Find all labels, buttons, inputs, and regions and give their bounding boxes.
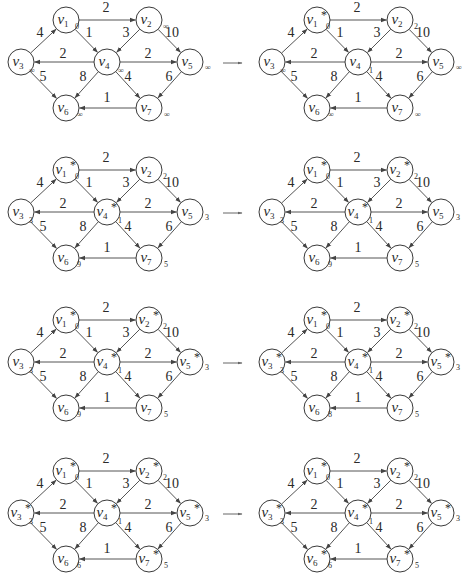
- edge-weight-v3-v1: 4: [288, 325, 295, 340]
- edge-weight-v2-v4: 3: [123, 175, 130, 190]
- permanent-mark-v1: *: [321, 8, 327, 22]
- edge-weight-v4-v5: 2: [396, 46, 403, 61]
- edge-v4-v6: [326, 72, 349, 98]
- distance-label-v2: 2: [163, 172, 167, 181]
- permanent-mark-v1: *: [321, 158, 327, 172]
- distance-label-v6: 9: [77, 410, 81, 419]
- edge-weight-v1-v4: 1: [337, 476, 344, 491]
- node-v7: v7*5: [136, 546, 168, 572]
- node-v6: v6*6: [304, 546, 332, 572]
- edge-weight-v4-v6: 8: [80, 69, 87, 84]
- node-v5: v5∞: [428, 49, 462, 75]
- edge-weight-v4-v7: 4: [376, 369, 383, 384]
- permanent-mark-v2: *: [153, 308, 159, 322]
- graph-panel-1-after: 2143102258461v1*0v22v3∞v41v5∞v6∞v7∞: [259, 0, 462, 121]
- edge-weight-v3-v6: 5: [291, 520, 298, 535]
- distance-label-v7: 5: [164, 260, 168, 269]
- edge-weight-v1-v2: 2: [103, 451, 110, 466]
- edge-weight-v3-v6: 5: [291, 69, 298, 84]
- edge-v4-v6: [326, 372, 349, 398]
- node-v4: v41: [345, 49, 373, 75]
- node-v5: v5*3: [177, 500, 209, 526]
- distance-label-v6: 9: [77, 260, 81, 269]
- node-v4: v4*1: [94, 500, 122, 526]
- node-v3: v33: [8, 199, 34, 225]
- node-v4: v4*1: [345, 500, 373, 526]
- distance-label-v6: 6: [328, 561, 332, 570]
- graph-panel-3-after: 2143102258461v1*0v2*2v3*3v4*1v5*3v68v75: [259, 300, 460, 421]
- node-v4: v4*1: [345, 349, 373, 375]
- graph-panel-3-before: 2143102258461v1*0v2*2v33v4*1v5*3v69v75: [8, 300, 242, 421]
- permanent-mark-v1: *: [70, 308, 76, 322]
- permanent-mark-v3: *: [25, 501, 31, 515]
- node-v4: v4*1: [94, 199, 122, 225]
- edge-weight-v4-v6: 8: [80, 219, 87, 234]
- node-v7: v75: [136, 395, 168, 421]
- node-v7: v75: [387, 395, 419, 421]
- distance-label-v5: ∞: [456, 63, 462, 72]
- node-v2: v2*2: [387, 458, 418, 484]
- edge-weight-v2-v4: 3: [374, 175, 381, 190]
- node-v5: v53: [177, 199, 209, 225]
- distance-label-v1: 0: [326, 172, 330, 181]
- graph-panel-4-after: 2143102258461v1*0v2*2v3*3v4*1v5*3v6*6v7*…: [259, 451, 460, 572]
- distance-label-v5: 3: [456, 213, 460, 222]
- node-v6: v6∞: [304, 95, 334, 121]
- edge-weight-v4-v6: 8: [80, 520, 87, 535]
- distance-label-v2: 2: [163, 473, 167, 482]
- distance-label-v6: ∞: [328, 110, 334, 119]
- edge-weight-v1-v4: 1: [337, 325, 344, 340]
- edge-weight-v4-v5: 2: [145, 46, 152, 61]
- distance-label-v1: 0: [326, 473, 330, 482]
- edge-weight-v4-v3: 2: [311, 46, 318, 61]
- edge-weight-v4-v6: 8: [331, 219, 338, 234]
- node-v3: v3∞: [259, 49, 286, 75]
- edge-v4-v6: [326, 222, 349, 248]
- distance-label-v6: 6: [77, 561, 81, 570]
- permanent-mark-v1: *: [70, 158, 76, 172]
- edge-weight-v4-v6: 8: [331, 369, 338, 384]
- edge-weight-v5-v7: 6: [417, 69, 424, 84]
- distance-label-v4: ∞: [118, 66, 124, 75]
- edge-weight-v4-v5: 2: [145, 196, 152, 211]
- edge-weight-v2-v5: 10: [416, 325, 430, 340]
- distance-label-v7: 5: [164, 410, 168, 419]
- edge-weight-v2-v5: 10: [416, 175, 430, 190]
- distance-label-v1: 0: [75, 172, 79, 181]
- distance-label-v7: 5: [415, 410, 419, 419]
- edge-weight-v1-v4: 1: [86, 325, 93, 340]
- distance-label-v1: 0: [326, 22, 330, 31]
- edge-weight-v1-v2: 2: [103, 0, 110, 15]
- permanent-mark-v4: *: [362, 350, 368, 364]
- edge-weight-v7-v6: 1: [104, 390, 111, 405]
- distance-label-v3: ∞: [29, 66, 35, 75]
- node-v1: v1*0: [53, 458, 79, 484]
- edge-weight-v7-v6: 1: [355, 541, 362, 556]
- permanent-mark-v1: *: [70, 459, 76, 473]
- node-v3: v33: [8, 349, 34, 375]
- edge-weight-v1-v2: 2: [103, 300, 110, 315]
- distance-label-v5: 3: [456, 514, 460, 523]
- edge-v4-v6: [75, 72, 98, 98]
- edge-v4-v6: [75, 372, 98, 398]
- edge-weight-v3-v6: 5: [291, 219, 298, 234]
- permanent-mark-v3: *: [276, 501, 282, 515]
- distance-label-v2: 2: [414, 22, 418, 31]
- edge-weight-v7-v6: 1: [104, 541, 111, 556]
- edge-weight-v1-v2: 2: [354, 451, 361, 466]
- edge-weight-v3-v6: 5: [40, 69, 47, 84]
- node-v6: v68: [304, 395, 332, 421]
- permanent-mark-v4: *: [111, 501, 117, 515]
- distance-label-v1: 0: [75, 22, 79, 31]
- node-v1: v1*0: [304, 307, 330, 333]
- permanent-mark-v7: *: [404, 547, 410, 561]
- distance-label-v7: 5: [415, 561, 419, 570]
- edge-weight-v2-v4: 3: [123, 325, 130, 340]
- edge-weight-v3-v6: 5: [291, 369, 298, 384]
- distance-label-v4: 1: [369, 66, 373, 75]
- edge-v4-v6: [326, 523, 349, 549]
- edge-weight-v3-v1: 4: [288, 175, 295, 190]
- node-v1: v1*0: [304, 458, 330, 484]
- permanent-mark-v5: *: [194, 501, 200, 515]
- distance-label-v7: 5: [164, 561, 168, 570]
